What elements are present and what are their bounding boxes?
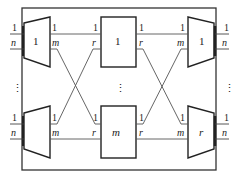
label: 1 bbox=[180, 22, 185, 33]
output-ellipsis: ⋮ bbox=[224, 82, 235, 94]
label: r bbox=[92, 37, 96, 48]
label-in-n: n bbox=[11, 37, 16, 48]
label: 1 bbox=[139, 22, 144, 33]
label: n bbox=[222, 127, 227, 138]
label: r bbox=[139, 37, 143, 48]
label: 1 bbox=[52, 112, 57, 123]
label-in-nb: n bbox=[11, 127, 16, 138]
label: 1 bbox=[52, 22, 57, 33]
middle-switch-1-label: 1 bbox=[115, 35, 121, 47]
label: m bbox=[52, 127, 59, 138]
label: 1 bbox=[224, 22, 229, 33]
label: 1 bbox=[139, 112, 144, 123]
label: 1 bbox=[93, 112, 98, 123]
clos-network-diagram: 1 n 1 n 1 1 m 1 m 1 r 1 r 1 m 1 r 1 r 1 … bbox=[0, 0, 239, 183]
middle-ellipsis: ⋮ bbox=[115, 82, 126, 94]
output-switch-1-label: 1 bbox=[199, 35, 205, 47]
label: m bbox=[177, 37, 184, 48]
label: 1 bbox=[93, 22, 98, 33]
middle-switch-m-label: m bbox=[112, 126, 120, 138]
label-in-1b: 1 bbox=[12, 112, 17, 123]
output-switch-r-label: r bbox=[199, 126, 204, 138]
input-ellipsis: ⋮ bbox=[12, 82, 23, 94]
label: m bbox=[52, 37, 59, 48]
label: m bbox=[177, 127, 184, 138]
input-switch-1-label: 1 bbox=[33, 35, 39, 47]
label-in-1: 1 bbox=[12, 22, 17, 33]
label: r bbox=[92, 127, 96, 138]
input-switch-r bbox=[24, 106, 50, 158]
label: 1 bbox=[180, 112, 185, 123]
label: n bbox=[222, 37, 227, 48]
label: r bbox=[139, 127, 143, 138]
label: 1 bbox=[224, 112, 229, 123]
